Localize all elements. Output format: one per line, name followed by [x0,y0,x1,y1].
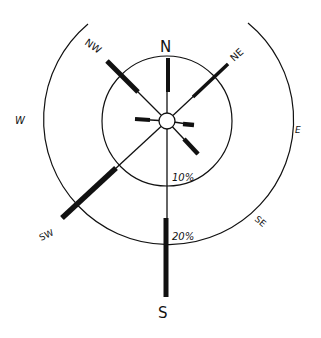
label-ne: NE [228,46,246,63]
center-circle [159,113,175,129]
petal-w [135,119,150,120]
spokes [62,58,228,297]
label-e: E [295,125,301,135]
label-s: S [158,304,168,322]
label-sw: SW [38,228,56,243]
label-se: SE [253,214,268,229]
label-ring-20: 20% [172,231,194,242]
label-w: W [15,115,26,126]
petal-ne [193,64,228,97]
petal-sw [62,168,116,218]
label-n: N [160,38,171,56]
rose-diagram: N NE E SE S SW W NW 10% 20% [0,0,321,338]
label-ring-10: 10% [172,172,194,183]
petal-se [184,139,198,154]
petals [62,58,228,297]
label-nw: NW [83,37,104,56]
petal-e [183,124,194,125]
